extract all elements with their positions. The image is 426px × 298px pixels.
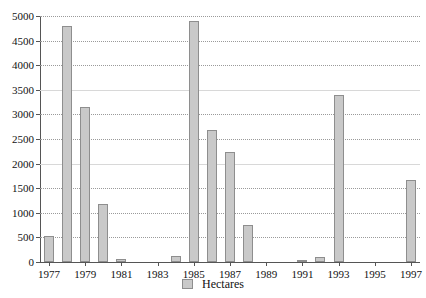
y-tick-mark — [36, 188, 40, 189]
bar-1988 — [243, 225, 253, 262]
x-tick-mark — [158, 262, 159, 266]
x-tick-mark — [230, 262, 231, 266]
bar-1981 — [116, 259, 126, 262]
gridline-y — [40, 41, 420, 42]
x-tick-mark — [411, 262, 412, 266]
y-tick-mark — [36, 237, 40, 238]
y-axis-label: 4000 — [12, 60, 34, 71]
y-tick-mark — [36, 16, 40, 17]
gridline-y — [40, 114, 420, 115]
y-axis-label: 4500 — [12, 35, 34, 46]
bar-1987 — [225, 152, 235, 262]
y-tick-mark — [36, 114, 40, 115]
bar-1997 — [406, 180, 416, 262]
y-axis-label: 3000 — [12, 109, 34, 120]
y-tick-mark — [36, 41, 40, 42]
x-tick-mark — [194, 262, 195, 266]
gridline-y — [40, 65, 420, 66]
y-tick-mark — [36, 139, 40, 140]
bar-chart: 0500100015002000250030003500400045005000… — [0, 0, 426, 298]
y-tick-mark — [36, 262, 40, 263]
bar-1992 — [315, 257, 325, 262]
gridline-y — [40, 90, 420, 91]
bar-1985 — [189, 21, 199, 262]
y-axis-label: 2000 — [12, 158, 34, 169]
y-axis-label: 1500 — [12, 183, 34, 194]
x-tick-mark — [339, 262, 340, 266]
y-axis-label: 5000 — [12, 11, 34, 22]
chart-legend: Hectares — [0, 278, 426, 290]
bar-1986 — [207, 130, 217, 262]
bar-1980 — [98, 204, 108, 262]
y-tick-mark — [36, 65, 40, 66]
y-tick-mark — [36, 164, 40, 165]
legend-swatch-hectares — [182, 279, 193, 289]
plot-area: 0500100015002000250030003500400045005000… — [40, 16, 420, 262]
y-axis-label: 1000 — [12, 207, 34, 218]
gridline-y — [40, 16, 420, 17]
x-tick-mark — [121, 262, 122, 266]
x-tick-mark — [266, 262, 267, 266]
legend-label-hectares: Hectares — [202, 278, 244, 290]
bar-1977 — [44, 236, 54, 262]
y-tick-mark — [36, 213, 40, 214]
y-tick-mark — [36, 90, 40, 91]
bar-1979 — [80, 107, 90, 262]
bar-1993 — [334, 95, 344, 262]
gridline-y — [40, 139, 420, 140]
y-axis-label: 3500 — [12, 84, 34, 95]
bar-1984 — [171, 256, 181, 262]
x-tick-mark — [375, 262, 376, 266]
bar-1978 — [62, 26, 72, 262]
y-axis-label: 0 — [29, 257, 35, 268]
y-axis-label: 2500 — [12, 134, 34, 145]
bar-1991 — [297, 260, 307, 262]
x-tick-mark — [85, 262, 86, 266]
y-axis-label: 500 — [18, 232, 35, 243]
x-tick-mark — [302, 262, 303, 266]
x-tick-mark — [49, 262, 50, 266]
